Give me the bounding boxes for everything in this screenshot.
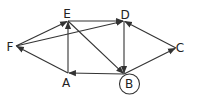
node-label-f: F (7, 40, 14, 54)
nodes-group: ABCDEF (7, 7, 185, 94)
edges-group (16, 21, 176, 74)
node-label-c: C (176, 41, 184, 55)
directed-graph: ABCDEF (0, 0, 197, 105)
edge-b-to-c (124, 48, 175, 74)
edge-e-to-b (68, 21, 123, 73)
edge-b-to-a (69, 73, 124, 74)
node-label-e: E (63, 7, 71, 21)
node-label-a: A (62, 76, 71, 90)
edge-f-to-d (16, 21, 123, 46)
node-label-b: B (125, 77, 133, 91)
node-label-d: D (120, 8, 129, 22)
edge-a-to-f (17, 46, 68, 73)
edge-f-to-e (16, 21, 67, 46)
edge-c-to-d (125, 21, 176, 48)
